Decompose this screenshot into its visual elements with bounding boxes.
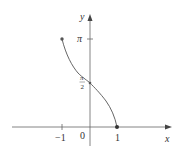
tick-label-zero: 0	[80, 130, 85, 141]
endpoint-left	[60, 37, 63, 40]
point-y-intercept	[89, 82, 92, 85]
tick-label-half-pi-numerator: π	[80, 74, 84, 82]
tick-label-one: 1	[115, 132, 120, 143]
tick-label-half-pi-denominator: 2	[81, 83, 85, 91]
x-axis-label: x	[164, 133, 170, 144]
tick-label-neg1: −1	[55, 132, 66, 143]
y-axis-label: y	[79, 11, 85, 22]
x-axis-arrow-icon	[165, 125, 172, 130]
endpoint-right	[115, 125, 119, 129]
y-axis-arrow-icon	[88, 14, 93, 21]
arccos-chart: y x π π 2 −1 0 1	[0, 0, 182, 153]
tick-label-pi: π	[77, 33, 83, 44]
